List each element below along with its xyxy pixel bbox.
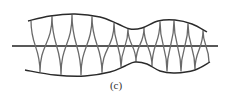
lower-envelope [25, 62, 210, 76]
carrier-wave [31, 15, 209, 76]
upper-envelope [28, 14, 207, 32]
modulated-wave-figure: (c) [0, 0, 232, 101]
figure-caption: (c) [0, 79, 232, 91]
